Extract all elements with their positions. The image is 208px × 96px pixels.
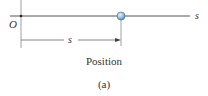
origin-label: O xyxy=(9,18,17,30)
axis-label: s xyxy=(195,10,199,21)
distance-label: s xyxy=(68,34,72,45)
caption-sublabel: (a) xyxy=(0,78,208,90)
origin-point xyxy=(20,15,23,18)
particle-ball xyxy=(117,12,125,20)
arrowhead-icon xyxy=(115,38,121,42)
caption-title: Position xyxy=(0,55,208,67)
